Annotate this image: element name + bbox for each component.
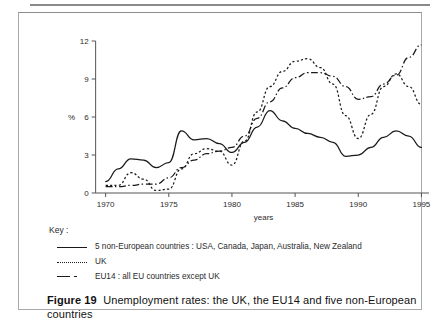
svg-text:1985: 1985 [286,200,304,209]
figure-caption-text: Unemployment rates: the UK, the EU14 and… [47,294,417,320]
svg-text:1990: 1990 [349,200,367,209]
series-dashdot [106,45,422,187]
figure-frame: 036912197019751980198519901995%years Key… [18,12,422,310]
svg-text:3: 3 [84,151,89,160]
svg-text:6: 6 [84,113,89,122]
figure-number: Figure 19 [47,294,97,306]
line-chart: 036912197019751980198519901995%years [41,27,437,227]
chart-plot-area: 036912197019751980198519901995%years [41,27,437,227]
figure-caption: Figure 19 Unemployment rates: the UK, th… [47,293,431,321]
key-label-uk: UK [95,257,106,266]
series-dotted [106,59,422,191]
chart-key: Key : 5 non-European countries : USA, Ca… [49,225,438,284]
key-entry-dotted: UK [49,254,438,269]
svg-text:%: % [68,113,75,122]
figure-page: 036912197019751980198519901995%years Key… [0,0,438,324]
svg-text:1975: 1975 [160,200,178,209]
key-label-five-non-european: 5 non-European countries : USA, Canada, … [95,242,362,251]
svg-text:years: years [254,213,274,222]
svg-text:1970: 1970 [97,200,115,209]
key-label-eu14: EU14 : all EU countries except UK [95,272,220,281]
key-title: Key : [49,225,438,235]
series-solid [106,111,422,182]
page-top-rule [30,4,430,6]
key-line-dashdot-icon [57,273,87,281]
key-line-dotted-icon [57,258,87,266]
key-entry-dashdot: EU14 : all EU countries except UK [49,269,438,284]
key-entry-solid: 5 non-European countries : USA, Canada, … [49,239,438,254]
svg-text:1980: 1980 [223,200,241,209]
key-line-solid-icon [57,243,87,251]
svg-text:0: 0 [84,189,89,198]
svg-text:1995: 1995 [413,200,431,209]
svg-text:9: 9 [84,75,89,84]
svg-text:12: 12 [80,37,89,46]
